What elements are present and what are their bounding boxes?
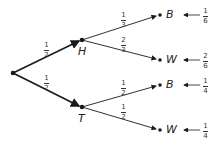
node-HB xyxy=(158,13,162,17)
prob-TB: 12 xyxy=(121,80,126,97)
prob-HB: 13 xyxy=(121,12,126,29)
outcome-HB: 16 xyxy=(203,8,208,25)
label-TW: W xyxy=(166,124,177,135)
prob-T: 12 xyxy=(44,75,49,92)
outcome-TW: 14 xyxy=(203,123,208,140)
prob-TW: 12 xyxy=(121,104,126,121)
node-H xyxy=(80,38,85,43)
prob-H: 12 xyxy=(44,42,49,59)
tree-lines xyxy=(0,0,218,147)
branch-H-B xyxy=(82,16,156,40)
prob-HW: 23 xyxy=(121,37,126,54)
branch-H-W xyxy=(82,40,156,59)
label-T: T xyxy=(78,113,85,124)
branch-T-W xyxy=(82,107,156,129)
node-HW xyxy=(158,58,162,62)
node-T xyxy=(80,105,85,110)
label-HB: B xyxy=(166,9,174,20)
outcome-TB: 14 xyxy=(203,78,208,95)
label-TB: B xyxy=(166,79,174,90)
branch-T-B xyxy=(82,86,156,107)
label-HW: W xyxy=(166,54,177,65)
label-H: H xyxy=(78,46,86,57)
node-TB xyxy=(158,83,162,87)
outcome-HW: 26 xyxy=(203,53,208,70)
node-TW xyxy=(158,128,162,132)
root-node xyxy=(11,71,16,76)
